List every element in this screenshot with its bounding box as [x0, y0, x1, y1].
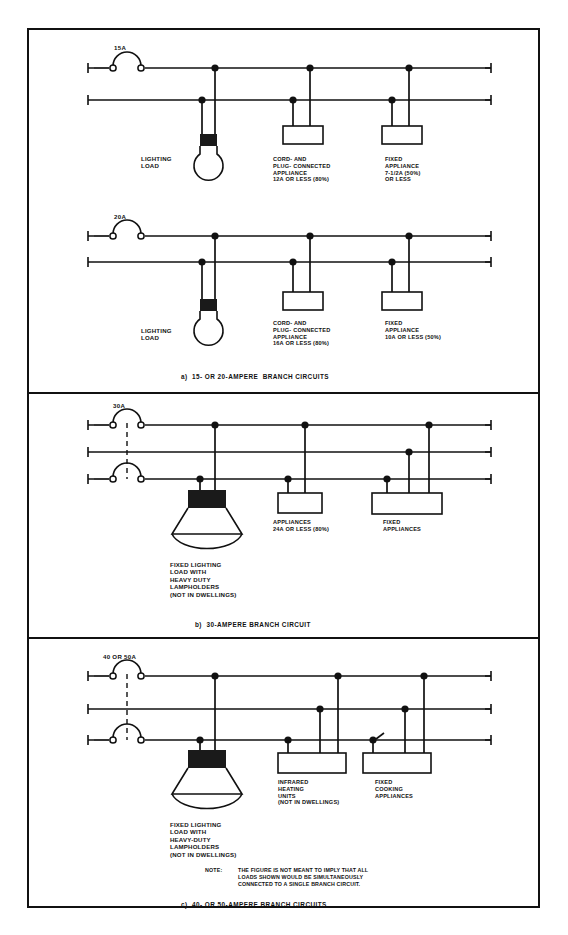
lighting-load-label-a2: LIGHTING LOAD	[141, 327, 172, 342]
note-label: NOTE:	[205, 867, 222, 873]
load-label-c-1: INFRARED HEATING UNITS (NOT IN DWELLINGS…	[278, 779, 339, 806]
breaker-rating-a1: 15A	[114, 44, 126, 51]
bus-line-hot-a1	[88, 52, 491, 73]
lighting-load-label-b: FIXED LIGHTING LOAD WITH HEAVY DUTY LAMP…	[170, 561, 237, 598]
lamp-reflector-b	[172, 490, 242, 549]
caption-section-c: c) 40- OR 50-AMPERE BRANCH CIRCUITS	[181, 901, 327, 908]
load-label-b-2: FIXED APPLIANCES	[383, 519, 421, 533]
load-box-c-2	[363, 672, 431, 773]
caption-section-b: b) 30-AMPERE BRANCH CIRCUIT	[195, 621, 311, 628]
load-box-b-1	[278, 421, 322, 513]
lamp-incandescent-a1	[194, 134, 223, 180]
load-label-b-1: APPLIANCES 24A OR LESS (80%)	[273, 519, 329, 533]
note-text: THE FIGURE IS NOT MEANT TO IMPLY THAT AL…	[238, 867, 368, 888]
lighting-load-label-a1: LIGHTING LOAD	[141, 155, 172, 170]
load-box-a2-1	[283, 232, 323, 310]
load-box-a2-2	[382, 232, 422, 310]
load-box-b-2	[372, 421, 442, 514]
breaker-rating-b: 30A	[113, 402, 125, 409]
figure-page: 15A LIGHTING LOAD CORD- AND PLUG- CONNEC…	[0, 0, 568, 935]
bus-line-neutral-c	[88, 704, 491, 714]
lamp-incandescent-a2	[194, 299, 223, 345]
switch-tick-c	[376, 733, 384, 739]
bus-line-hot-a2	[88, 220, 491, 241]
bus-line-hot1-c	[88, 660, 491, 681]
lamp-reflector-c	[172, 750, 242, 809]
load-box-a1-2	[382, 64, 422, 144]
load-box-a1-1	[283, 64, 323, 144]
load-label-a2-2: FIXED APPLIANCE 10A OR LESS (50%)	[385, 320, 441, 340]
load-label-a1-1: CORD- AND PLUG- CONNECTED APPLIANCE 12A …	[273, 156, 330, 183]
load-label-c-2: FIXED COOKING APPLIANCES	[375, 779, 413, 799]
load-label-a2-1: CORD- AND PLUG- CONNECTED APPLIANCE 16A …	[273, 320, 330, 347]
load-box-c-1	[278, 672, 346, 773]
breaker-rating-a2: 20A	[114, 213, 126, 220]
load-label-a1-2: FIXED APPLIANCE 7-1/2A (50%) OR LESS	[385, 156, 420, 183]
caption-section-a: a) 15- OR 20-AMPERE BRANCH CIRCUITS	[181, 373, 329, 380]
bus-line-neutral-b	[88, 447, 491, 457]
breaker-rating-c: 40 OR 50A	[103, 653, 136, 660]
lighting-load-label-c: FIXED LIGHTING LOAD WITH HEAVY-DUTY LAMP…	[170, 821, 237, 858]
